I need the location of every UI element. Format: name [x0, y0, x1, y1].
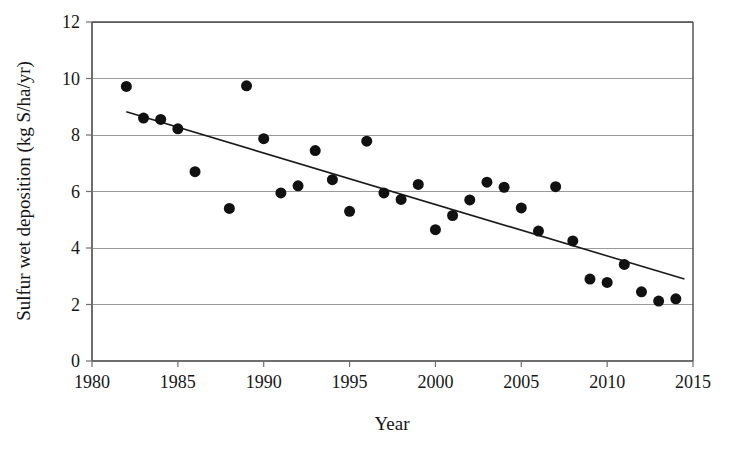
y-axis-title: Sulfur wet deposition (kg S/ha/yr) — [13, 61, 35, 321]
data-point — [190, 166, 201, 177]
data-point — [155, 114, 166, 125]
data-point — [344, 206, 355, 217]
data-point — [224, 203, 235, 214]
data-point — [464, 194, 475, 205]
data-point — [670, 293, 681, 304]
data-point — [516, 202, 527, 213]
data-point — [310, 145, 321, 156]
data-point — [636, 286, 647, 297]
data-point — [533, 226, 544, 237]
data-point — [550, 181, 561, 192]
data-point — [567, 235, 578, 246]
scatter-plot-figure: 024681012 198019851990199520002005201020… — [0, 0, 741, 463]
x-axis-title: Year — [374, 413, 410, 434]
y-axis-tick-labels: 024681012 — [62, 12, 80, 371]
data-point — [430, 224, 441, 235]
data-point — [138, 113, 149, 124]
data-point — [172, 123, 183, 134]
x-tick-label: 1995 — [332, 372, 368, 392]
data-point — [378, 187, 389, 198]
data-point — [584, 274, 595, 285]
chart-canvas: 024681012 198019851990199520002005201020… — [0, 0, 741, 463]
x-tick-label: 1980 — [74, 372, 110, 392]
y-tick-label: 6 — [71, 182, 80, 202]
x-tick-label: 2015 — [675, 372, 711, 392]
y-tick-label: 2 — [71, 295, 80, 315]
data-point — [396, 194, 407, 205]
data-point — [258, 133, 269, 144]
data-point — [293, 180, 304, 191]
data-point — [275, 187, 286, 198]
data-point — [499, 182, 510, 193]
y-tick-label: 12 — [62, 12, 80, 32]
data-point — [619, 259, 630, 270]
x-tick-label: 2010 — [589, 372, 625, 392]
data-point — [361, 136, 372, 147]
y-tick-label: 4 — [71, 238, 80, 258]
y-tick-label: 8 — [71, 125, 80, 145]
data-point — [653, 296, 664, 307]
data-point — [481, 177, 492, 188]
data-point — [121, 81, 132, 92]
x-tick-label: 1990 — [246, 372, 282, 392]
data-point — [327, 174, 338, 185]
x-tick-label: 2000 — [417, 372, 453, 392]
y-tick-label: 10 — [62, 69, 80, 89]
x-tick-label: 1985 — [160, 372, 196, 392]
x-tick-label: 2005 — [503, 372, 539, 392]
data-point — [241, 80, 252, 91]
data-point — [602, 277, 613, 288]
data-point — [447, 210, 458, 221]
x-axis-tick-labels: 19801985199019952000200520102015 — [74, 372, 711, 392]
y-tick-label: 0 — [71, 351, 80, 371]
data-point — [413, 179, 424, 190]
